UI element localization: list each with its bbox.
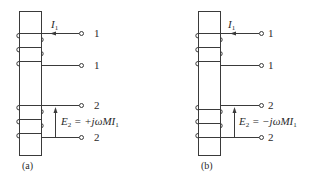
- terminal-label-2prime-b: 2: [268, 132, 274, 143]
- terminal-1prime-b: [260, 64, 264, 68]
- terminal-2prime-b: [260, 136, 264, 140]
- terminal-2-a: [80, 104, 84, 108]
- terminal-1prime-a: [80, 64, 84, 68]
- emf-arrowhead-icon-b: [233, 107, 237, 113]
- terminal-2prime-a: [80, 136, 84, 140]
- terminal-label-1-a: 1: [94, 28, 100, 39]
- terminal-label-2prime-a: 2: [94, 132, 100, 143]
- emf-equation-a: E2 = +jωMI1: [61, 116, 119, 129]
- caption-b: (b): [201, 161, 213, 171]
- emf-arrowhead-icon-a: [54, 107, 58, 113]
- panel-a-drawing: [17, 12, 84, 156]
- terminal-label-2-a: 2: [94, 100, 100, 111]
- current-arrow-icon-a: [50, 32, 56, 36]
- terminal-2-b: [260, 104, 264, 108]
- panel-b-drawing: [196, 12, 264, 156]
- current-arrow-icon-b: [230, 32, 236, 36]
- diagram-canvas: [0, 0, 313, 177]
- current-label-b: I1: [228, 19, 235, 32]
- terminal-label-2-b: 2: [268, 100, 274, 111]
- terminal-label-1-b: 1: [268, 28, 274, 39]
- terminal-label-1prime-b: 1: [268, 60, 274, 71]
- terminal-1-a: [80, 32, 84, 36]
- emf-equation-b: E2 = −jωMI1: [239, 116, 297, 129]
- terminal-label-1prime-a: 1: [94, 60, 100, 71]
- caption-a: (a): [22, 161, 33, 171]
- terminal-1-b: [260, 32, 264, 36]
- current-label-a: I1: [51, 19, 58, 32]
